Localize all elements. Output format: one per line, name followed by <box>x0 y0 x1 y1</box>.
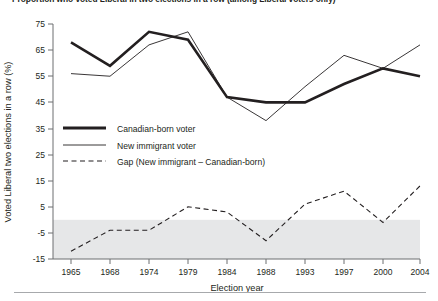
x-axis-ticks <box>71 259 420 264</box>
chart-legend: Canadian-born voter New immigrant voter … <box>63 124 265 167</box>
shaded-band <box>53 220 420 259</box>
y-tick-label: 25 <box>36 150 46 160</box>
y-axis-ticks <box>48 24 53 259</box>
line-chart-plot: 75 65 55 45 35 25 15 5 -5 -15 1965 <box>0 0 438 301</box>
series-line-new-immigrant <box>71 32 420 121</box>
x-tick-label: 1988 <box>257 267 276 277</box>
y-axis-tick-labels: 75 65 55 45 35 25 15 5 -5 -15 <box>33 19 46 264</box>
x-tick-label: 1974 <box>140 267 159 277</box>
series-line-canadian-born <box>71 32 420 103</box>
legend-label-new-immigrant: New immigrant voter <box>117 141 196 151</box>
y-tick-label: 35 <box>36 124 46 134</box>
x-tick-label: 2004 <box>411 267 430 277</box>
x-tick-label: 1984 <box>218 267 237 277</box>
x-tick-label: 1968 <box>101 267 120 277</box>
x-tick-label: 1993 <box>296 267 315 277</box>
x-axis-tick-labels: 1965 1968 1974 1979 1984 1988 1993 1997 … <box>62 267 430 277</box>
x-tick-label: 1965 <box>62 267 81 277</box>
chart-figure: Proportion who voted Liberal in two elec… <box>0 0 438 301</box>
legend-label-gap: Gap (New immigrant – Canadian-born) <box>117 157 265 167</box>
y-axis-title: Voted Liberal two elections in a row (%) <box>3 62 13 223</box>
y-tick-label: 55 <box>36 71 46 81</box>
y-tick-label: -15 <box>33 254 46 264</box>
y-tick-label: 45 <box>36 97 46 107</box>
footer-divider <box>14 292 426 293</box>
y-tick-label: -5 <box>37 228 45 238</box>
y-tick-label: 75 <box>36 19 46 29</box>
x-tick-label: 1997 <box>335 267 354 277</box>
x-tick-label: 1979 <box>179 267 198 277</box>
y-tick-label: 15 <box>36 176 46 186</box>
y-tick-label: 5 <box>40 202 45 212</box>
legend-label-canadian-born: Canadian-born voter <box>117 124 195 134</box>
x-tick-label: 2000 <box>374 267 393 277</box>
y-tick-label: 65 <box>36 45 46 55</box>
